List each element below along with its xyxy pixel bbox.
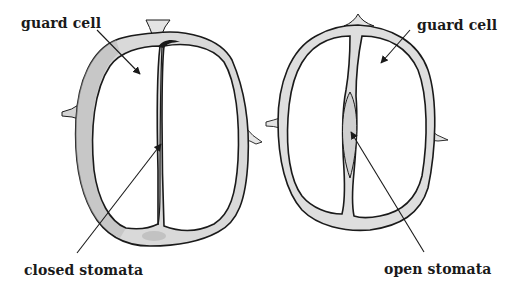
left-guard-cell-label: guard cell [21, 16, 101, 30]
open-stomata-illustration [266, 14, 448, 230]
open-stomata-label: open stomata [384, 262, 491, 276]
right-guard-cell-label: guard cell [417, 18, 497, 32]
diagram-artwork [0, 0, 517, 294]
closed-stomata-label: closed stomata [24, 263, 143, 277]
stomata-diagram: guard cell closed stomata guard cell ope… [0, 0, 517, 294]
closed-stomata-illustration [62, 20, 262, 246]
